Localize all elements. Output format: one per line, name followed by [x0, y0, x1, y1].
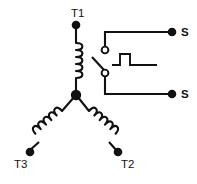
branch-t2: T2 — [77, 96, 134, 170]
switch-bottom-lead — [105, 77, 170, 94]
switch-contact-bottom-icon — [102, 70, 109, 77]
winding-coil-t2-group — [89, 106, 120, 134]
winding-coil-t2 — [89, 106, 120, 134]
terminal-label-s-top: S — [181, 26, 189, 38]
terminal-dot-t1 — [72, 21, 81, 30]
terminal-label-t2: T2 — [121, 158, 134, 170]
winding-coil-t3 — [31, 106, 62, 134]
terminal-dot-t3 — [26, 148, 35, 157]
wye-center-node — [71, 90, 81, 100]
branch-t1: T1 — [71, 7, 84, 94]
switch-contact-top-icon — [102, 47, 109, 54]
branch-t3: T3 — [14, 96, 75, 170]
wye-winding-schematic: T1 T3 T2 S — [0, 0, 197, 184]
winding-coil-t3-group — [31, 106, 62, 134]
terminal-dot-t2 — [114, 148, 123, 157]
switch-top-lead — [105, 32, 170, 46]
switch-cam-pulse-icon — [112, 54, 157, 65]
switch-blade — [92, 57, 104, 70]
terminal-label-t1: T1 — [71, 7, 84, 19]
terminal-dot-s-bottom — [168, 90, 177, 99]
centrifugal-switch: S S — [92, 26, 189, 100]
terminal-label-s-bottom: S — [181, 88, 189, 100]
terminal-dot-s-top — [168, 28, 177, 37]
terminal-label-t3: T3 — [14, 158, 27, 170]
schematic-diagram: T1 T3 T2 S — [0, 0, 197, 184]
winding-coil-t1 — [76, 43, 82, 78]
